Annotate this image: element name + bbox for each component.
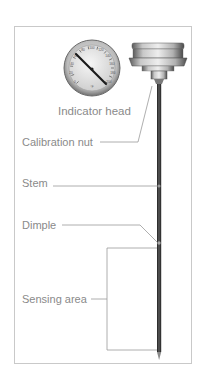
indicator-head-dial: 0 20 40 60 80 100 120 140 160 180 200 °F [64, 40, 120, 96]
indicator-head-side [129, 43, 187, 84]
svg-text:100: 100 [89, 46, 95, 50]
calibration-nut [151, 71, 167, 79]
svg-text:140: 140 [105, 54, 111, 58]
svg-text:180: 180 [110, 71, 116, 75]
svg-text:°F: °F [90, 85, 93, 89]
label-stem: Stem [22, 177, 48, 189]
label-indicator-head: Indicator head [58, 105, 131, 117]
sensing-area-bracket [107, 248, 157, 350]
leader-lines [53, 86, 157, 350]
dimple-marker [157, 241, 160, 244]
svg-text:160: 160 [109, 62, 115, 66]
svg-text:200: 200 [106, 80, 112, 84]
stem-marker [157, 184, 160, 187]
label-calibration-nut: Calibration nut [22, 136, 93, 148]
dimple-leader [62, 225, 157, 242]
svg-text:20: 20 [69, 71, 73, 75]
svg-text:40: 40 [70, 62, 74, 66]
label-sensing-area: Sensing area [22, 293, 87, 305]
svg-text:0: 0 [74, 80, 76, 84]
svg-text:80: 80 [81, 48, 85, 52]
svg-text:120: 120 [98, 48, 104, 52]
label-dimple: Dimple [22, 219, 56, 231]
stem [157, 84, 161, 360]
